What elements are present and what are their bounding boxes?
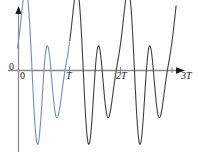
x-tick-label-T: T xyxy=(66,71,72,81)
y-axis-arrow-icon xyxy=(15,6,21,14)
waveform-figure: 0 0 T 2T 3T xyxy=(0,0,198,156)
x-tick-label-3T: 3T xyxy=(181,71,192,81)
y-axis-zero-label: 0 xyxy=(9,62,14,72)
x-tick-label-2T: 2T xyxy=(116,71,127,81)
waveform-curve-first-period xyxy=(17,0,69,144)
plot-canvas xyxy=(0,0,198,156)
origin-label: 0 xyxy=(20,71,25,81)
